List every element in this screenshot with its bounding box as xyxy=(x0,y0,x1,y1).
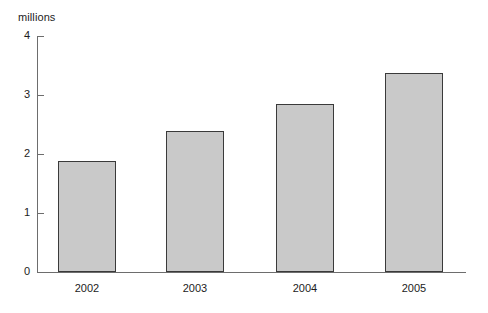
plot-area xyxy=(37,36,465,272)
x-axis-label-2002: 2002 xyxy=(42,283,132,294)
bar-2004[interactable] xyxy=(276,104,334,272)
y-tick-label-4: 4 xyxy=(0,30,30,41)
bar-chart: millions 01234 2002200320042005 xyxy=(0,0,488,313)
x-axis-label-2004: 2004 xyxy=(260,283,350,294)
y-tick-label-3: 3 xyxy=(0,89,30,100)
bar-2003[interactable] xyxy=(166,131,224,272)
y-tick-label-0: 0 xyxy=(0,266,30,277)
x-axis-label-2003: 2003 xyxy=(150,283,240,294)
bar-2005[interactable] xyxy=(385,73,443,272)
y-axis-title: millions xyxy=(18,11,55,23)
y-tick-0 xyxy=(38,272,44,273)
y-tick-label-1: 1 xyxy=(0,207,30,218)
bar-2002[interactable] xyxy=(58,161,116,272)
y-tick-label-2: 2 xyxy=(0,148,30,159)
x-axis-line xyxy=(37,272,466,273)
x-axis-label-2005: 2005 xyxy=(369,283,459,294)
